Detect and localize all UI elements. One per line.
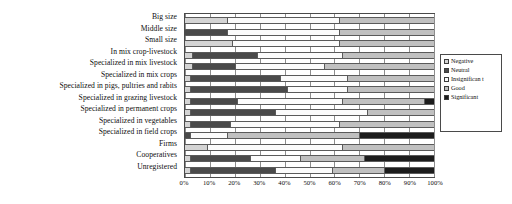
bar-segment-good (342, 52, 434, 59)
bar-row (185, 86, 434, 93)
bar-segment-good (227, 132, 359, 139)
legend-label: Significant (451, 94, 478, 101)
bar-segment-neutral (190, 109, 275, 116)
bar-row (185, 155, 434, 162)
bar-segment-insignificant (227, 29, 339, 36)
category-label: Small size (0, 36, 180, 44)
bar-segment-insignificant (280, 75, 347, 82)
category-label: Specialized in mix crops (0, 71, 180, 79)
bar-segment-neutral (192, 63, 234, 70)
category-label: Specialized in permanent crops (0, 105, 180, 113)
x-axis-tick-labels: 0%10%20%30%40%50%60%70%80%90%100% (184, 179, 435, 193)
category-label: Specialized in field crops (0, 128, 180, 136)
stacked-bar-chart: Big sizeMiddle sizeSmall sizeIn mix crop… (0, 0, 512, 204)
bar-series-container (185, 14, 434, 177)
category-label: Firms (0, 140, 180, 148)
category-label: Middle size (0, 25, 180, 33)
bar-segment-negative (185, 52, 192, 59)
bar-segment-neutral (190, 86, 287, 93)
bar-segment-significant (424, 98, 434, 105)
bar-segment-neutral (190, 155, 250, 162)
legend-swatch-negative (444, 59, 449, 64)
legend-swatch-good (444, 86, 449, 91)
legend-label: Neutral (451, 67, 470, 74)
bar-row (185, 98, 434, 105)
bar-segment-good (347, 86, 434, 93)
category-label: In mix crop-livestock (0, 48, 180, 56)
x-tick-label: 70% (354, 179, 366, 187)
bar-segment-insignificant (275, 109, 367, 116)
bar-segment-insignificant (207, 144, 341, 151)
chart-legend: NegativeNeutralInsignifican tGoodSignifi… (440, 54, 502, 132)
category-axis-labels: Big sizeMiddle sizeSmall sizeIn mix crop… (0, 13, 180, 171)
bar-segment-neutral (192, 52, 257, 59)
bar-segment-significant (364, 155, 434, 162)
bar-segment-insignificant (235, 63, 325, 70)
gridline (434, 14, 435, 177)
bar-segment-good (367, 109, 434, 116)
bar-segment-good (342, 98, 424, 105)
bar-row (185, 17, 434, 24)
bar-segment-neutral (185, 29, 227, 36)
bar-segment-insignificant (275, 167, 332, 174)
legend-item: Significant (444, 94, 499, 101)
x-tick-label: 30% (253, 179, 265, 187)
bar-segment-significant (384, 167, 434, 174)
legend-label: Insignifican t (451, 76, 484, 83)
plot-area (184, 13, 435, 178)
bar-row (185, 167, 434, 174)
legend-label: Good (451, 85, 465, 92)
bar-segment-neutral (190, 121, 230, 128)
x-tick-label: 20% (228, 179, 240, 187)
x-tick-label: 40% (278, 179, 290, 187)
x-tick-label: 80% (379, 179, 391, 187)
bar-segment-good (300, 155, 365, 162)
bar-row (185, 29, 434, 36)
bar-segment-significant (359, 132, 434, 139)
legend-item: Insignifican t (444, 76, 499, 83)
bar-segment-negative (185, 17, 227, 24)
bar-segment-good (339, 17, 434, 24)
x-tick-label: 0% (180, 179, 189, 187)
bar-segment-insignificant (230, 121, 340, 128)
bar-segment-neutral (190, 75, 280, 82)
bar-row (185, 75, 434, 82)
bar-segment-insignificant (287, 86, 347, 93)
bar-segment-neutral (190, 98, 237, 105)
x-tick-label: 90% (404, 179, 416, 187)
category-label: Big size (0, 13, 180, 21)
bar-segment-good (339, 40, 434, 47)
category-label: Specialized in mix livestock (0, 59, 180, 67)
legend-label: Negative (451, 58, 473, 65)
bar-row (185, 121, 434, 128)
category-label: Specialized in vegetables (0, 117, 180, 125)
x-tick-label: 10% (203, 179, 215, 187)
bar-segment-insignificant (237, 98, 342, 105)
bar-row (185, 52, 434, 59)
legend-swatch-significant (444, 95, 449, 100)
legend-item: Negative (444, 58, 499, 65)
category-label: Unregistered (0, 163, 180, 171)
legend-swatch-neutral (444, 68, 449, 73)
bar-segment-negative (185, 144, 207, 151)
bar-segment-insignificant (190, 132, 227, 139)
bar-segment-insignificant (257, 52, 342, 59)
bar-segment-negative (185, 40, 232, 47)
bar-row (185, 132, 434, 139)
bar-segment-good (342, 144, 434, 151)
category-label: Specialized in pigs, pultries and rabits (0, 82, 180, 90)
bar-row (185, 40, 434, 47)
bar-row (185, 63, 434, 70)
bar-segment-insignificant (232, 40, 339, 47)
bar-segment-good (339, 29, 434, 36)
bar-segment-good (347, 75, 434, 82)
bar-segment-neutral (190, 167, 275, 174)
x-tick-label: 100% (427, 179, 442, 187)
legend-item: Neutral (444, 67, 499, 74)
legend-item: Good (444, 85, 499, 92)
bar-row (185, 109, 434, 116)
bar-segment-good (339, 121, 434, 128)
bar-segment-insignificant (227, 17, 339, 24)
legend-swatch-insignificant (444, 77, 449, 82)
x-tick-label: 50% (303, 179, 315, 187)
